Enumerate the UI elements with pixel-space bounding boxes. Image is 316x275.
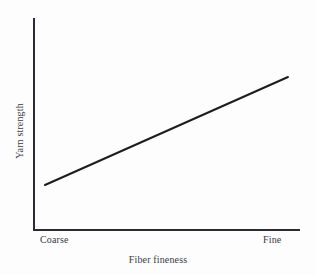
y-axis-title-container: Yarn strength [12,95,26,167]
x-axis-tick-label-coarse: Coarse [40,234,69,245]
data-line-yarn-strength [45,77,288,185]
y-axis-title: Yarn strength [14,103,25,159]
line-chart-figure: Coarse Fine Fiber fineness Yarn strength [0,0,316,275]
x-axis-title: Fiber fineness [0,254,316,265]
x-axis-tick-label-fine: Fine [263,234,281,245]
